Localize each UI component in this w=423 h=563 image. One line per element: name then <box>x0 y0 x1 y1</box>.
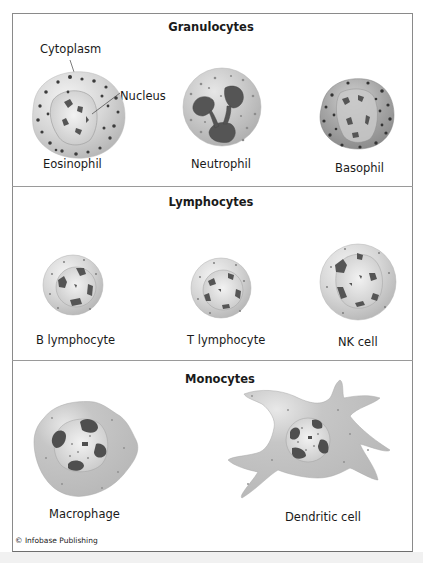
section-title-granulocytes: Granulocytes <box>131 20 291 34</box>
section-divider-2 <box>12 360 413 361</box>
t-lymphocyte-illustration <box>190 257 252 319</box>
neutrophil-illustration <box>181 66 263 148</box>
nk-cell-illustration <box>319 243 397 321</box>
macrophage-illustration <box>32 398 142 500</box>
cell-label-nk-cell: NK cell <box>338 335 378 349</box>
section-title-lymphocytes: Lymphocytes <box>131 195 291 209</box>
b-lymphocyte-illustration <box>42 254 104 316</box>
section-divider-1 <box>12 186 413 187</box>
callout-cytoplasm-label: Cytoplasm <box>40 42 101 56</box>
cell-label-neutrophil: Neutrophil <box>191 157 251 171</box>
cell-label-basophil: Basophil <box>335 161 384 175</box>
cell-label-dendritic-cell: Dendritic cell <box>285 510 361 524</box>
page-background-strip <box>0 552 423 563</box>
dendritic-cell-illustration <box>228 380 398 505</box>
basophil-illustration <box>318 75 396 151</box>
cell-label-t-lymphocyte: T lymphocyte <box>187 333 265 347</box>
copyright-credit: © Infobase Publishing <box>15 536 98 545</box>
cell-label-b-lymphocyte: B lymphocyte <box>36 333 115 347</box>
cell-label-eosinophil: Eosinophil <box>43 157 102 171</box>
eosinophil-illustration <box>28 66 128 166</box>
cell-label-macrophage: Macrophage <box>49 507 120 521</box>
